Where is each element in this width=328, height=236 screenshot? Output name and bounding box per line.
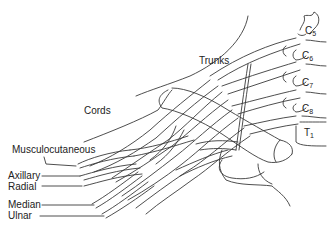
label-root-c6: C6 xyxy=(302,51,313,62)
cords-leader-line xyxy=(84,90,172,142)
label-root-c8: C8 xyxy=(302,104,313,115)
root-number: 8 xyxy=(309,108,313,115)
label-musculocutaneous: Musculocutaneous xyxy=(12,145,95,155)
root-number: 5 xyxy=(312,30,316,37)
label-ulnar: Ulnar xyxy=(8,211,32,221)
label-root-c7: C7 xyxy=(302,78,313,89)
label-trunks: Trunks xyxy=(199,56,229,66)
plexus-line-art xyxy=(0,0,328,236)
label-radial: Radial xyxy=(8,182,36,192)
trunks-leader-line xyxy=(136,16,248,96)
clavicle xyxy=(159,88,292,163)
terminal-nerves xyxy=(78,150,154,218)
root-number: 7 xyxy=(309,82,313,89)
label-axillary: Axillary xyxy=(8,171,40,181)
scapula xyxy=(219,150,290,206)
label-cords: Cords xyxy=(84,106,111,116)
root-number: 1 xyxy=(310,132,314,139)
root-number: 6 xyxy=(309,55,313,62)
nerve-divisions xyxy=(90,80,250,214)
label-leader-lines xyxy=(40,157,104,216)
label-root-c5: C5 xyxy=(305,26,316,37)
brachial-plexus-diagram: Trunks Cords Musculocutaneous Axillary R… xyxy=(0,0,328,236)
label-root-t1: T1 xyxy=(304,128,314,139)
label-median: Median xyxy=(8,200,41,210)
